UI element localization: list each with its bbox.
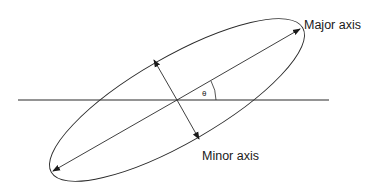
- minor-axis-arrow-upper: [154, 60, 177, 100]
- ellipse-outline: [30, 0, 324, 188]
- major-axis-label: Major axis: [304, 18, 361, 32]
- minor-axis-label: Minor axis: [202, 149, 259, 163]
- theta-label: θ: [202, 89, 207, 98]
- ellipse-diagram: θ Major axis Minor axis: [0, 0, 382, 188]
- minor-axis-arrow-lower: [177, 100, 199, 139]
- angle-arc: [211, 81, 216, 100]
- major-axis-arrow: [177, 29, 300, 100]
- major-axis-arrow-lower: [53, 100, 177, 171]
